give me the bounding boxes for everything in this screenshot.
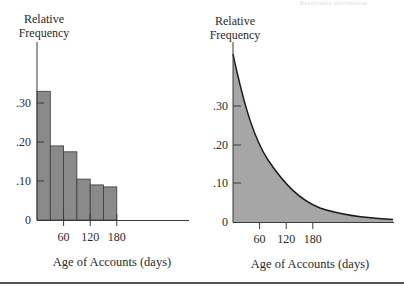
right-ytick-0: 0	[202, 216, 228, 228]
left-xtick-120: 120	[75, 231, 105, 243]
left-ytick-0: 0	[5, 214, 31, 226]
bar-30-60	[50, 146, 63, 220]
bar-90-120	[77, 179, 90, 220]
right-x-axis-label: Age of Accounts (days)	[225, 257, 395, 271]
left-xtick-180: 180	[102, 231, 132, 243]
right-xtick-60: 60	[245, 233, 275, 245]
right-ytick-10: .10	[202, 177, 228, 189]
bar-150-180	[104, 187, 117, 220]
bar-60-90	[64, 152, 77, 220]
left-ytick-30: .30	[5, 97, 31, 109]
right-xtick-120: 120	[271, 233, 301, 245]
left-ytick-20: .20	[5, 136, 31, 148]
left-ytick-10: .10	[5, 175, 31, 187]
right-xtick-180: 180	[298, 233, 328, 245]
left-xtick-60: 60	[49, 231, 79, 243]
right-x-ticks	[260, 222, 313, 229]
bar-0-30	[37, 91, 50, 220]
right-ytick-30: .30	[202, 100, 228, 112]
bar-120-150	[90, 185, 103, 220]
right-ylabel-line1: Relative	[195, 14, 275, 28]
left-histogram-bars	[37, 91, 117, 220]
right-ylabel-line2: Frequency	[195, 28, 275, 42]
left-x-axis-label: Age of Accounts (days)	[27, 255, 197, 269]
footer-divider	[0, 282, 404, 284]
right-ytick-20: .20	[202, 139, 228, 151]
right-y-axis-label: Relative Frequency	[195, 14, 275, 42]
